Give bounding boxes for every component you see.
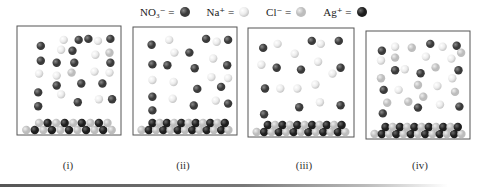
sodium-ion xyxy=(207,73,215,81)
sodium-ion xyxy=(57,90,65,98)
panel-caption-i: (i) xyxy=(48,159,88,171)
precipitate-silver xyxy=(163,119,171,127)
precipitate-chloride xyxy=(301,121,309,129)
precipitate-chloride xyxy=(108,126,116,134)
nitrate-ion xyxy=(217,83,225,91)
chloride-ion xyxy=(414,81,422,89)
sodium-ion xyxy=(276,84,284,92)
chloride-ion xyxy=(67,68,75,76)
chloride-ion xyxy=(431,63,439,71)
precipitate-chloride xyxy=(417,123,425,131)
nitrate-ion xyxy=(193,85,201,93)
beaker-panel xyxy=(248,28,354,137)
nitrate-ion xyxy=(106,35,114,43)
precipitate-silver xyxy=(293,121,301,129)
precipitate-chloride xyxy=(73,126,81,134)
nitrate-ion xyxy=(380,86,388,94)
nitrate-ion xyxy=(455,102,463,110)
precipitate-silver xyxy=(60,119,68,127)
chloride-ion xyxy=(383,99,391,107)
sodium-ion xyxy=(209,54,217,62)
precipitate-silver xyxy=(454,123,462,131)
nitrate-ion xyxy=(261,84,269,92)
precipitate-chloride xyxy=(253,128,261,136)
sodium-ion xyxy=(311,80,319,88)
nitrate-ion xyxy=(453,42,461,50)
sodium-ion xyxy=(94,37,102,45)
sodium-ion xyxy=(316,98,324,106)
sodium-ion xyxy=(170,48,178,56)
sodium-ion xyxy=(291,50,299,58)
sodium-ion xyxy=(447,54,455,62)
precipitate-chloride xyxy=(86,119,94,127)
precipitate-silver xyxy=(206,119,214,127)
nitrate-ion xyxy=(224,99,232,107)
sodium-ion xyxy=(394,86,402,94)
nitrate-ion xyxy=(190,101,198,109)
nitrate-ion xyxy=(416,69,424,77)
precipitate-chloride xyxy=(370,130,378,138)
sodium-ion xyxy=(377,56,385,64)
nitrate-ion xyxy=(70,59,78,67)
nitrate-ion xyxy=(108,95,116,103)
nitrate-ion xyxy=(260,110,268,118)
nitrate-ion xyxy=(223,61,231,69)
precipitate-silver xyxy=(31,126,39,134)
precipitate-silver xyxy=(221,119,229,127)
nitrate-ion xyxy=(336,63,344,71)
precipitate-silver xyxy=(308,121,316,129)
nitrate-ion xyxy=(454,66,462,74)
nitrate-ion xyxy=(148,106,156,114)
sodium-ion xyxy=(438,43,446,51)
sodium-ion xyxy=(165,36,173,44)
nitrate-ion xyxy=(163,61,171,69)
sodium-ion xyxy=(57,46,65,54)
precipitate-silver xyxy=(177,119,185,127)
beaker-panel xyxy=(17,26,121,135)
nitrate-ion xyxy=(191,64,199,72)
precipitate-silver xyxy=(148,119,156,127)
precipitate-chloride xyxy=(35,119,43,127)
sodium-ion xyxy=(169,95,177,103)
nitrate-ion xyxy=(336,101,344,109)
precipitate-silver xyxy=(323,121,331,129)
chloride-ion xyxy=(391,53,399,61)
precipitate-chloride xyxy=(199,119,207,127)
nitrate-ion xyxy=(202,35,210,43)
chloride-ion xyxy=(105,49,113,57)
beaker-panel xyxy=(366,31,470,139)
precipitate-chloride xyxy=(39,126,47,134)
nitrate-ion xyxy=(75,36,83,44)
sodium-ion xyxy=(53,71,61,79)
precipitate-silver xyxy=(99,126,107,134)
precipitate-silver xyxy=(43,119,51,127)
precipitate-silver xyxy=(278,121,286,129)
panel-caption-iv: (iv) xyxy=(400,159,440,171)
sodium-ion xyxy=(273,40,281,48)
sodium-ion xyxy=(95,95,103,103)
nitrate-ion xyxy=(295,103,303,111)
precipitate-silver xyxy=(48,126,56,134)
precipitate-silver xyxy=(65,126,73,134)
nitrate-ion xyxy=(148,93,156,101)
nitrate-ion xyxy=(147,41,155,49)
nitrate-ion xyxy=(259,44,267,52)
sodium-ion xyxy=(90,67,98,75)
sodium-ion xyxy=(314,58,322,66)
nitrate-ion xyxy=(37,42,45,50)
sodium-ion xyxy=(169,78,177,86)
precipitate-chloride xyxy=(22,126,30,134)
nitrate-ion xyxy=(68,47,76,55)
sodium-ion xyxy=(448,74,456,82)
precipitate-chloride xyxy=(403,123,411,131)
precipitate-chloride xyxy=(56,126,64,134)
nitrate-ion xyxy=(335,37,343,45)
precipitate-chloride xyxy=(446,123,454,131)
precipitate-silver xyxy=(95,119,103,127)
precipitate-silver xyxy=(425,123,433,131)
sodium-ion xyxy=(328,69,336,77)
precipitate-silver xyxy=(78,119,86,127)
nitrate-ion xyxy=(414,103,422,111)
chloride-ion xyxy=(451,88,459,96)
sodium-ion xyxy=(257,60,265,68)
